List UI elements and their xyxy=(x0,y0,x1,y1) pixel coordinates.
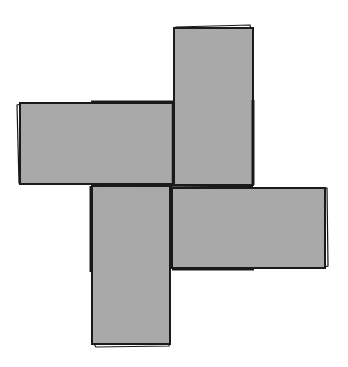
rectangle-bottom xyxy=(91,186,170,347)
rectangle-top xyxy=(174,25,253,185)
rectangle-left xyxy=(17,102,173,184)
rectangle-right-face xyxy=(172,188,325,268)
rectangle-bottom-face xyxy=(92,186,170,344)
center-divider-horizontal xyxy=(92,185,253,186)
pinwheel-diagram xyxy=(0,0,348,367)
rectangle-right xyxy=(172,188,328,269)
rectangle-left-face xyxy=(20,103,173,184)
rectangle-top-face xyxy=(174,28,253,185)
